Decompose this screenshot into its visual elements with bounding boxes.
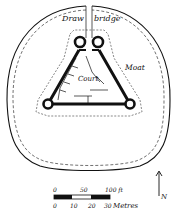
- label-bridge: bridge: [94, 14, 121, 23]
- scale-ft-0: 0: [53, 186, 57, 193]
- moat-outline: [7, 6, 170, 171]
- label-draw: Draw: [61, 14, 84, 23]
- scale-m-10: 10: [70, 202, 78, 209]
- drawbridge: [86, 6, 92, 38]
- scale-m-0: 0: [53, 202, 57, 209]
- north-label: N: [160, 193, 168, 201]
- label-moat: Moat: [124, 63, 146, 72]
- label-court: Court: [78, 75, 98, 83]
- scale-ft-50: 50: [80, 186, 88, 193]
- scale-ft-100: 100 ft: [105, 186, 124, 194]
- scale-m-30: 30: [104, 202, 112, 209]
- scale-metres-label: Metres: [112, 202, 139, 210]
- castle-plan: Draw bridge Court Moat 0 50 100 ft 0 10 …: [0, 0, 176, 216]
- towers: [44, 37, 135, 109]
- scale-m-20: 20: [87, 202, 96, 209]
- scale-bar: 0 50 100 ft 0 10 20 30 Metres: [53, 186, 139, 210]
